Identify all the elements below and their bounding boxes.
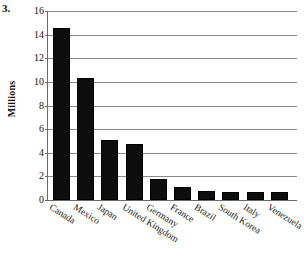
exercise-item-number: 3. — [2, 3, 10, 14]
y-axis-tick-label: 4 — [39, 148, 44, 158]
x-axis-label: Venezuela — [265, 202, 303, 231]
y-axis-tick-mark — [45, 200, 48, 201]
bar — [101, 140, 118, 200]
x-axis-labels: CanadaMexicoJapanUnited KingdomGermanyFr… — [47, 202, 304, 275]
y-axis-tick-label: 14 — [34, 30, 44, 40]
bar — [247, 192, 264, 200]
cropped-title-sliver — [60, 0, 260, 2]
bar — [77, 78, 94, 200]
x-axis-label: Canada — [48, 202, 77, 226]
y-axis-title: Millions — [7, 69, 17, 129]
bar — [150, 179, 167, 200]
bar-chart-figure: 3. Millions 0246810121416 CanadaMexicoJa… — [0, 0, 304, 275]
y-axis-tick-label: 2 — [39, 171, 44, 181]
plot-area: 0246810121416 — [47, 11, 297, 201]
y-axis-tick-label: 12 — [34, 53, 44, 63]
y-axis-tick-label: 16 — [34, 6, 44, 16]
bar — [53, 28, 70, 200]
x-axis-label: Brazil — [193, 202, 218, 223]
bar — [222, 192, 239, 200]
bar — [174, 187, 191, 200]
y-axis-tick-label: 6 — [39, 124, 44, 134]
bar — [198, 191, 215, 200]
bar — [271, 192, 288, 200]
y-axis-tick-label: 0 — [39, 195, 44, 205]
bars-group — [48, 11, 297, 200]
bar — [126, 144, 143, 200]
y-axis-tick-label: 8 — [39, 101, 44, 111]
y-axis-tick-label: 10 — [34, 77, 44, 87]
